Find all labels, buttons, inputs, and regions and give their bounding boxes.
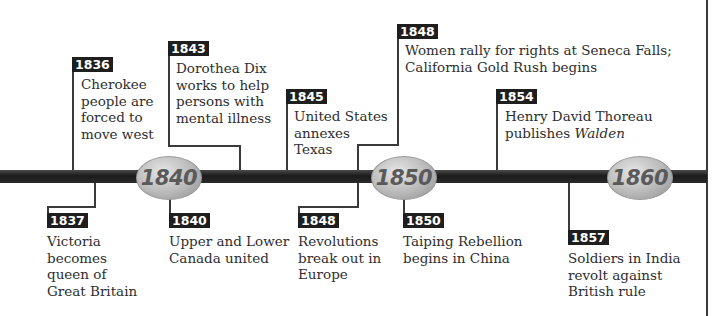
year-label-1836: 1836 bbox=[72, 57, 113, 72]
connector-1848-above-b bbox=[357, 144, 399, 146]
connector-1848-below-a bbox=[357, 183, 359, 207]
connector-1848-above-c bbox=[357, 144, 359, 170]
event-text-1854-title: Walden bbox=[574, 125, 624, 141]
event-text-1845: United States annexes Texas bbox=[294, 108, 388, 158]
year-label-1845: 1845 bbox=[286, 89, 327, 104]
year-label-1848-below: 1848 bbox=[298, 213, 339, 228]
connector-1857 bbox=[568, 183, 570, 231]
event-text-1836: Cherokee people are forced to move west bbox=[81, 76, 154, 142]
year-label-1840: 1840 bbox=[169, 213, 210, 228]
event-text-1848-above: Women rally for rights at Seneca Falls; … bbox=[405, 42, 672, 75]
event-text-1850: Taiping Rebellion begins in China bbox=[403, 233, 522, 266]
year-label-1857: 1857 bbox=[568, 230, 609, 245]
connector-1843-c bbox=[239, 145, 241, 170]
year-label-1850: 1850 bbox=[403, 213, 444, 228]
right-border-line bbox=[706, 0, 708, 316]
connector-1837-b bbox=[47, 206, 96, 208]
year-label-1837: 1837 bbox=[47, 213, 88, 228]
decade-marker-1850: 1850 bbox=[371, 156, 437, 200]
decade-marker-1860: 1860 bbox=[607, 156, 673, 200]
connector-1843-a bbox=[168, 56, 170, 146]
connector-1848-above-a bbox=[397, 39, 399, 145]
connector-1843-b bbox=[168, 145, 240, 147]
decade-marker-1840: 1840 bbox=[136, 156, 202, 200]
timeline-bar bbox=[0, 170, 707, 183]
connector-1845 bbox=[286, 104, 288, 170]
event-text-1843: Dorothea Dix works to help persons with … bbox=[176, 60, 271, 126]
event-text-1848-below: Revolutions break out in Europe bbox=[298, 233, 381, 283]
event-text-1854: Henry David Thoreau publishes Walden bbox=[505, 108, 653, 141]
year-label-1854: 1854 bbox=[496, 89, 537, 104]
connector-1836 bbox=[72, 72, 74, 170]
connector-1837-a bbox=[94, 183, 96, 207]
connector-1854 bbox=[496, 104, 498, 170]
year-label-1843: 1843 bbox=[168, 41, 209, 56]
event-text-1840: Upper and Lower Canada united bbox=[169, 233, 289, 266]
event-text-1857: Soldiers in India revolt against British… bbox=[568, 250, 681, 300]
event-text-1837: Victoria becomes queen of Great Britain bbox=[47, 233, 137, 299]
connector-1848-below-b bbox=[298, 206, 359, 208]
year-label-1848-above: 1848 bbox=[397, 24, 438, 39]
